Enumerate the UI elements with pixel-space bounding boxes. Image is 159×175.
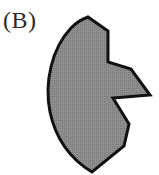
notched-crescent-shape [48,17,150,172]
shape-canvas [0,0,159,175]
figure-panel: (B) [0,0,159,175]
